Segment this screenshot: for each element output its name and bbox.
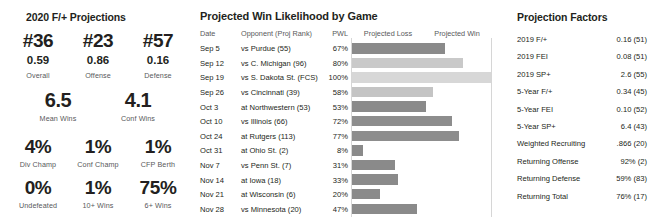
game-bar (352, 58, 463, 69)
factor-row: Weighted Recruiting.866 (20) (505, 135, 664, 152)
stat-rank-label: Overall (8, 72, 68, 79)
game-row: Nov 28vs Minnesota (20)47% (196, 202, 505, 217)
game-pwl-value: 8% (312, 146, 348, 155)
stat-rank-value: 0.86 (68, 55, 128, 67)
stat-season-label: Undefeated (8, 202, 68, 209)
factor-row: 5-Year F/+0.34 (45) (505, 83, 664, 100)
stat-rank-cell: #570.16Defense (128, 31, 188, 79)
game-date: Oct 24 (200, 132, 222, 141)
stat-rank-label: Offense (68, 72, 128, 79)
game-bar-track (352, 70, 491, 85)
game-opponent: vs S. Dakota St. (FCS) (241, 73, 318, 82)
projections-wins-row: 6.5Mean Wins4.1Conf Wins (18, 90, 178, 122)
game-opponent: at Northwestern (53) (241, 103, 310, 112)
game-bar-track (352, 129, 491, 144)
game-bar (352, 72, 491, 83)
factor-value: 6.4 (43) (621, 122, 647, 131)
game-pwl-value: 53% (312, 103, 348, 112)
game-bar (352, 131, 459, 142)
stat-rank-cell: #230.86Offense (68, 31, 128, 79)
stat-champ-label: CFP Berth (128, 161, 188, 168)
stat-champ-value: 1% (128, 137, 188, 156)
factor-row: Returning Total76% (17) (505, 188, 664, 205)
factor-value: 76% (17) (616, 192, 647, 201)
game-row: Sep 12vs C. Michigan (96)80% (196, 56, 505, 71)
factor-label: 5-Year SP+ (517, 122, 556, 131)
game-pwl-value: 20% (312, 190, 348, 199)
factor-row: 5-Year SP+6.4 (43) (505, 118, 664, 135)
factor-value: 92% (2) (620, 157, 647, 166)
stat-champ-cell: 1%CFP Berth (128, 137, 188, 168)
stat-champ-cell: 4%Div Champ (8, 137, 68, 168)
game-date: Sep 12 (200, 59, 224, 68)
stat-season-label: 6+ Wins (128, 202, 188, 209)
factor-value: .866 (20) (617, 139, 647, 148)
projections-championship-row: 4%Div Champ1%Conf Champ1%CFP Berth (8, 137, 188, 168)
stat-season-value: 1% (68, 178, 128, 197)
factors-rows-container: 2019 F/+0.16 (51)2019 FEI0.08 (51)2019 S… (505, 31, 664, 205)
factor-row: 2019 F/+0.16 (51) (505, 31, 664, 48)
game-opponent: at Rutgers (113) (241, 132, 295, 141)
projections-season-row: 0%Undefeated1%10+ Wins75%6+ Wins (8, 178, 188, 209)
game-opponent: vs Purdue (55) (241, 44, 291, 53)
factor-value: 0.34 (45) (617, 87, 647, 96)
factors-title: Projection Factors (517, 11, 607, 23)
projections-panel: 2020 F/+ Projections #360.59Overall#230.… (0, 0, 196, 224)
game-bar-track (352, 41, 491, 56)
game-bar (352, 174, 398, 185)
factor-value: 0.16 (51) (617, 35, 647, 44)
stat-rank-rank: #36 (8, 31, 68, 50)
game-bar-track (352, 99, 491, 114)
game-bar (352, 160, 395, 171)
game-bar-track (352, 56, 491, 71)
factor-label: 2019 SP+ (517, 70, 551, 79)
column-header-date: Date (200, 29, 215, 38)
game-pwl-value: 58% (312, 88, 348, 97)
game-opponent: vs Illinois (66) (241, 117, 287, 126)
stat-rank-value: 0.59 (8, 55, 68, 67)
factor-value: 0.08 (51) (617, 52, 647, 61)
game-bar (352, 87, 433, 98)
game-date: Oct 31 (200, 146, 222, 155)
game-bar-track (352, 143, 491, 158)
game-bar (352, 101, 426, 112)
game-date: Nov 28 (200, 205, 224, 214)
games-title: Projected Win Likelihood by Game (200, 10, 378, 22)
game-bar (352, 145, 363, 156)
game-bar-track (352, 172, 491, 187)
game-row: Sep 19vs S. Dakota St. (FCS)100% (196, 70, 505, 85)
projections-title: 2020 F/+ Projections (26, 11, 126, 23)
column-header-opponent: Opponent (Proj Rank) (241, 29, 312, 38)
stat-rank-label: Defense (128, 72, 188, 79)
stat-champ-value: 1% (68, 137, 128, 156)
stat-season-cell: 0%Undefeated (8, 178, 68, 209)
factor-row: 2019 SP+2.6 (55) (505, 66, 664, 83)
column-header-pwl: PWL (320, 29, 348, 38)
stat-rank-value: 0.16 (128, 55, 188, 67)
game-pwl-value: 47% (312, 205, 348, 214)
factor-value: 2.6 (55) (621, 70, 647, 79)
stat-wins-value: 6.5 (18, 90, 98, 110)
stat-champ-label: Div Champ (8, 161, 68, 168)
game-bar (352, 204, 417, 215)
factor-row: 2019 FEI0.08 (51) (505, 48, 664, 65)
stat-season-cell: 1%10+ Wins (68, 178, 128, 209)
game-bar (352, 43, 445, 54)
factor-row: Returning Defense59% (83) (505, 170, 664, 187)
factor-label: 5-Year FEI (517, 105, 553, 114)
stat-champ-label: Conf Champ (68, 161, 128, 168)
stat-rank-cell: #360.59Overall (8, 31, 68, 79)
stat-champ-cell: 1%Conf Champ (68, 137, 128, 168)
game-bar-track (352, 202, 491, 217)
projections-rank-row: #360.59Overall#230.86Offense#570.16Defen… (8, 31, 188, 79)
game-date: Oct 10 (200, 117, 222, 126)
game-bar-track (352, 114, 491, 129)
game-bar-track (352, 85, 491, 100)
factor-label: Weighted Recruiting (517, 139, 585, 148)
game-date: Nov 14 (200, 176, 224, 185)
stat-season-value: 0% (8, 178, 68, 197)
game-row: Sep 5vs Purdue (55)67% (196, 41, 505, 56)
games-rows-container: Sep 5vs Purdue (55)67%Sep 12vs C. Michig… (196, 41, 505, 216)
factor-value: 59% (83) (616, 174, 647, 183)
game-opponent: vs Minnesota (20) (241, 205, 301, 214)
